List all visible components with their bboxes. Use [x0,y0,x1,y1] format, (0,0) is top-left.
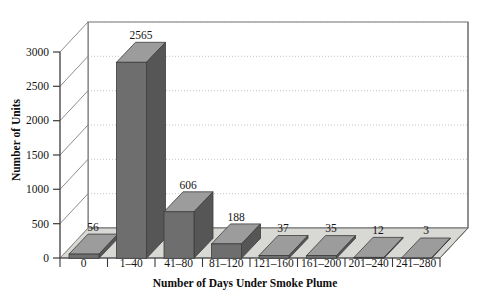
bar-value-label-5: 35 [325,222,337,234]
x-tick-label-3: 81–120 [209,257,244,269]
x-tick-label-4: 121–160 [254,257,295,269]
y-tick-label-3000: 3000 [26,46,49,58]
y-tick-label-2500: 2500 [26,80,49,92]
y-tick-label-500: 500 [32,218,50,230]
bar-value-label-0: 56 [87,221,99,233]
bar-front-1 [117,62,147,258]
x-tick-label-2: 41–80 [164,257,193,269]
y-tick-label-1500: 1500 [26,149,49,161]
x-axis-title: Number of Days Under Smoke Plume [153,277,338,290]
bar-value-label-7: 3 [423,224,429,236]
bar-value-label-1: 2565 [130,29,153,41]
y-tick-label-1000: 1000 [26,183,49,195]
x-tick-label-0: 0 [81,257,87,269]
x-tick-label-5: 161–200 [301,257,342,269]
chart-svg: 3000 2500 2000 1500 1000 500 0 Number of… [0,0,491,301]
bar-side-1 [147,42,166,258]
bar-value-label-3: 188 [227,211,245,223]
x-tick-label-6: 201–240 [349,257,390,269]
bar-chart-figure: 3000 2500 2000 1500 1000 500 0 Number of… [0,0,491,301]
bar-value-label-2: 606 [179,179,197,191]
bar-value-label-4: 37 [277,222,289,234]
x-tick-label-1: 1–40 [120,257,143,269]
x-tick-label-7: 241–280 [396,257,437,269]
y-tick-label-0: 0 [43,252,49,264]
bar-front-2 [164,212,194,258]
bar-value-label-6: 12 [372,224,384,236]
bar-group-1 [117,42,166,258]
y-tick-label-2000: 2000 [26,114,49,126]
y-axis-title: Number of Units [10,98,22,181]
